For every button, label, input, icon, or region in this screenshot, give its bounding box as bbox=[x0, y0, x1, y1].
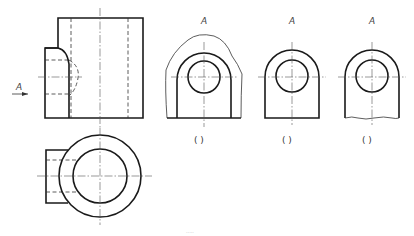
option-3-view-label: A bbox=[368, 16, 375, 26]
engineering-drawing: A A ( ) A ( ) A ( bbox=[0, 0, 414, 236]
option-1-answer-brackets[interactable]: ( ) bbox=[194, 135, 204, 145]
hidden-intersection-curve bbox=[69, 60, 78, 96]
top-view-lug-outline bbox=[46, 150, 68, 203]
option-2-answer-brackets[interactable]: ( ) bbox=[282, 135, 292, 145]
option-2-view-label: A bbox=[288, 16, 295, 26]
option-1-view-label: A bbox=[200, 16, 207, 26]
view-arrow-head-icon bbox=[22, 92, 28, 96]
option-view-2: A ( ) bbox=[258, 16, 326, 145]
top-view bbox=[37, 128, 152, 225]
option-3-answer-brackets[interactable]: ( ) bbox=[362, 135, 372, 145]
option-view-1: A ( ) bbox=[166, 16, 242, 145]
front-view-lug-outline bbox=[45, 48, 69, 118]
option-view-3: A ( ) bbox=[338, 16, 406, 145]
watermark-text: ..... bbox=[186, 228, 194, 234]
front-view: A bbox=[12, 8, 143, 128]
view-direction-label: A bbox=[15, 82, 22, 92]
